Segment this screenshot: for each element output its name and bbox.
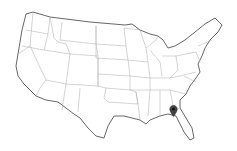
map-pin-icon[interactable] xyxy=(169,105,178,117)
us-map-svg xyxy=(0,0,237,151)
us-outline xyxy=(16,12,222,140)
state-borders xyxy=(18,12,212,120)
us-map: United States xyxy=(0,0,237,151)
